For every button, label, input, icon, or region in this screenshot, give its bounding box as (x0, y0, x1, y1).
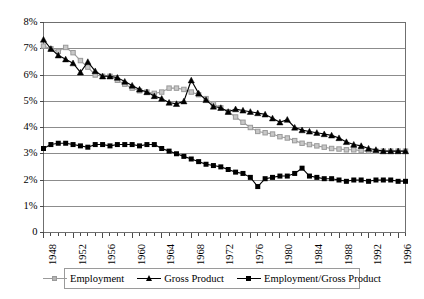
data-point-marker (388, 178, 393, 183)
data-point-marker (70, 60, 76, 66)
data-point-marker (351, 178, 356, 183)
data-point-marker (78, 143, 83, 148)
y-axis-ticks (40, 23, 44, 233)
data-point-marker (352, 148, 356, 152)
data-point-marker (307, 142, 311, 146)
data-point-marker (248, 125, 252, 129)
data-point-marker (248, 175, 253, 180)
data-point-marker (159, 146, 164, 151)
chart-legend: EmploymentGross ProductEmployment/Gross … (64, 268, 360, 289)
data-point-marker (277, 174, 282, 179)
data-point-marker (41, 146, 46, 151)
data-point-marker (160, 90, 164, 94)
data-point-marker (115, 142, 120, 147)
x-tick-label: 1976 (255, 244, 266, 265)
x-tick-label: 1992 (373, 244, 384, 265)
data-point-marker (122, 142, 127, 147)
data-point-marker (174, 151, 179, 156)
data-point-marker (344, 148, 348, 152)
data-point-marker (300, 166, 305, 171)
data-point-marker (269, 115, 275, 121)
data-point-marker (381, 178, 386, 183)
data-point-marker (218, 164, 223, 169)
data-point-marker (255, 184, 260, 189)
data-series-2 (40, 36, 408, 153)
data-point-marker (233, 170, 238, 175)
series-line (44, 40, 406, 152)
data-point-marker (396, 179, 401, 184)
data-point-marker (48, 142, 53, 147)
data-point-marker (292, 138, 296, 142)
data-point-marker (241, 120, 245, 124)
data-point-marker (86, 65, 90, 69)
data-point-marker (278, 134, 282, 138)
data-point-marker (403, 179, 408, 184)
data-point-marker (41, 44, 45, 48)
x-tick-label: 1952 (78, 244, 89, 265)
data-point-marker (189, 90, 193, 94)
legend-item[interactable]: Gross Product (137, 273, 224, 284)
grid-lines (44, 23, 406, 233)
data-point-marker (359, 148, 363, 152)
legend-marker-icon (43, 274, 67, 284)
data-point-marker (285, 136, 289, 140)
legend-marker-square-filled (246, 276, 251, 281)
x-axis-ticks (44, 233, 406, 238)
y-tick-label: 6% (24, 70, 38, 81)
data-point-marker (263, 176, 268, 181)
data-point-marker (196, 159, 201, 164)
y-tick-label: 0 (32, 227, 37, 238)
data-point-marker (71, 142, 76, 147)
legend-item[interactable]: Employment (43, 273, 124, 284)
data-point-marker (130, 142, 135, 147)
data-point-marker (366, 179, 371, 184)
data-point-marker (166, 99, 172, 105)
data-series-group (40, 36, 408, 189)
data-point-marker (85, 59, 91, 65)
legend-item[interactable]: Employment/Gross Product (237, 273, 381, 284)
x-tick-label: 1960 (137, 244, 148, 265)
x-tick-label: 1968 (196, 244, 207, 265)
data-point-marker (78, 58, 82, 62)
data-point-marker (181, 154, 186, 159)
data-point-marker (322, 145, 326, 149)
data-point-marker (85, 145, 90, 150)
data-point-marker (285, 174, 290, 179)
data-point-marker (152, 142, 157, 147)
data-point-marker (337, 178, 342, 183)
y-tick-label: 3% (24, 148, 38, 159)
data-point-marker (93, 142, 98, 147)
y-tick-label: 1% (24, 201, 38, 212)
data-point-marker (270, 132, 274, 136)
data-point-marker (144, 142, 149, 147)
x-tick-label: 1948 (48, 244, 59, 265)
data-point-marker (270, 175, 275, 180)
data-point-marker (344, 179, 349, 184)
data-point-marker (284, 117, 290, 123)
data-point-marker (337, 147, 341, 151)
data-point-marker (329, 146, 333, 150)
data-point-marker (182, 87, 186, 91)
legend-marker-icon (137, 274, 161, 284)
data-point-marker (226, 167, 231, 172)
data-point-marker (240, 171, 245, 176)
data-point-marker (107, 143, 112, 148)
x-tick-label: 1984 (314, 244, 325, 265)
data-point-marker (373, 178, 378, 183)
y-tick-label: 4% (24, 122, 38, 133)
legend-marker-icon (237, 274, 261, 284)
data-point-marker (167, 86, 171, 90)
data-point-marker (322, 176, 327, 181)
data-point-marker (189, 157, 194, 162)
data-point-marker (359, 178, 364, 183)
data-point-marker (188, 77, 194, 83)
data-point-marker (167, 149, 172, 154)
data-point-marker (129, 82, 135, 88)
data-point-marker (56, 141, 61, 146)
series-line (44, 46, 406, 151)
data-point-marker (315, 144, 319, 148)
data-point-marker (300, 141, 304, 145)
y-tick-label: 2% (24, 175, 38, 186)
data-point-marker (232, 106, 238, 112)
data-point-marker (137, 143, 142, 148)
